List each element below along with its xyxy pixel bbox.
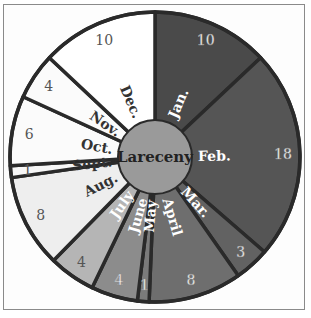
value-label: 4: [44, 78, 53, 94]
value-label: 4: [114, 272, 123, 288]
value-label: 8: [36, 207, 45, 223]
center-label: Lareceny: [117, 148, 194, 166]
value-label: 6: [25, 126, 34, 142]
value-label: 8: [187, 272, 196, 288]
value-label: 1: [23, 162, 32, 178]
value-label: 10: [197, 32, 215, 48]
value-label: 18: [274, 146, 292, 162]
value-label: 10: [95, 32, 113, 48]
month-label: Feb.: [198, 147, 231, 164]
value-label: 1: [140, 277, 149, 293]
value-label: 4: [77, 254, 86, 270]
donut-chart: Jan.10Feb.18Mar.3April8May1June4July4Aug…: [0, 0, 311, 318]
value-label: 3: [236, 244, 245, 260]
